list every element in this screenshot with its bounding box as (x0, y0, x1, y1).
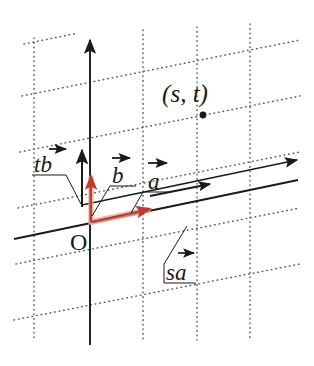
point-st-marker (200, 112, 207, 119)
grid-oblique-line (16, 208, 300, 264)
label-sa: sa (166, 260, 186, 285)
label-tb: tb (34, 152, 52, 177)
label-a: a (148, 169, 160, 194)
leader-b (92, 186, 110, 216)
vector-diagram-canvas: tb b a sa O (s, t) (0, 0, 314, 366)
vector-a (91, 209, 150, 222)
label-b-group: b (112, 158, 130, 188)
label-a-group: a (148, 163, 167, 194)
label-origin: O (70, 229, 87, 255)
grid-oblique-line (24, 33, 78, 44)
grid-oblique-line (14, 264, 300, 320)
label-sa-group: sa (166, 253, 194, 285)
leader-tb (66, 175, 81, 204)
grid-oblique-line (22, 40, 300, 96)
label-point-coordinates: (s, t) (162, 80, 208, 108)
vector-diagram-figure: tb b a sa O (s, t) (0, 0, 314, 366)
label-b: b (112, 163, 124, 188)
label-tb-group: tb (34, 149, 66, 177)
grid-oblique-line (20, 96, 300, 152)
